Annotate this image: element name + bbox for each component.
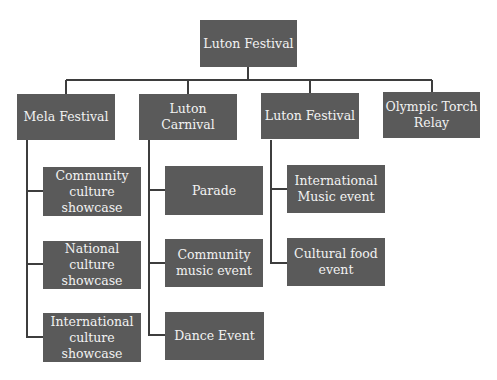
node-dance-event: Dance Event — [165, 312, 264, 360]
node-olympic-torch-relay: Olympic Torch Relay — [383, 92, 480, 138]
node-community-music-event: Community music event — [165, 239, 263, 287]
node-cultural-food-event: Cultural food event — [287, 238, 385, 286]
node-root-luton-festival: Luton Festival — [200, 20, 297, 67]
node-international-music-event: International Music event — [287, 165, 385, 213]
node-parade: Parade — [165, 166, 263, 215]
node-national-culture-showcase: National culture showcase — [43, 241, 141, 289]
node-luton-carnival: Luton Carnival — [139, 94, 237, 140]
node-mela-festival: Mela Festival — [17, 94, 115, 140]
node-community-culture-showcase: Community culture showcase — [43, 167, 141, 216]
node-luton-festival-branch: Luton Festival — [261, 93, 359, 139]
node-international-culture-showcase: International culture showcase — [43, 313, 141, 362]
